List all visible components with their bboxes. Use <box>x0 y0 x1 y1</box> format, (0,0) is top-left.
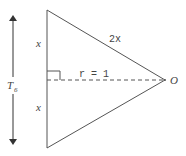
triangle-diagram: x x 2x r = 1 O T 6 <box>0 0 186 156</box>
label-total-sub: 6 <box>14 86 18 94</box>
right-angle-marker <box>47 71 60 80</box>
label-center: O <box>170 74 178 86</box>
center-point <box>164 79 166 81</box>
label-total-main: T <box>7 79 14 91</box>
label-hypotenuse: 2x <box>109 34 121 45</box>
label-side-top: x <box>35 37 41 49</box>
label-total-side: T 6 <box>4 77 22 94</box>
label-side-bottom: x <box>35 101 41 113</box>
label-radius: r = 1 <box>79 69 109 80</box>
